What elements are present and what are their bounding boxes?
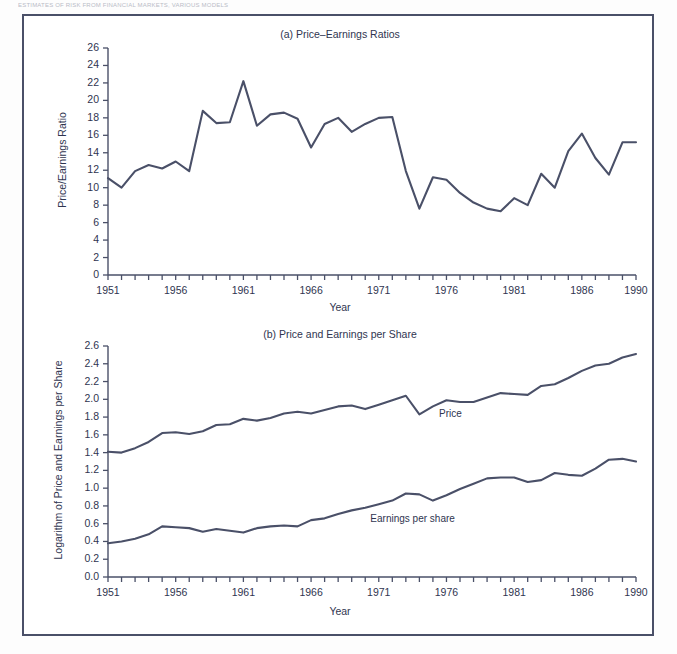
y-tick-label: 12	[63, 163, 99, 175]
x-tick-label: 1986	[552, 586, 612, 598]
y-tick-label: 1.6	[63, 428, 99, 440]
x-tick-label: 1976	[416, 586, 476, 598]
y-tick-label: 2.2	[63, 375, 99, 387]
x-tick-label: 1990	[606, 586, 666, 598]
figure-page: ESTIMATES OF RISK FROM FINANCIAL MARKETS…	[0, 0, 677, 654]
y-tick-label: 1.8	[63, 410, 99, 422]
y-tick-label: 1.4	[63, 446, 99, 458]
x-tick-label: 1971	[349, 586, 409, 598]
y-tick-label: 26	[63, 41, 99, 53]
y-tick-label: 1.0	[63, 481, 99, 493]
y-tick-label: 1.2	[63, 463, 99, 475]
y-tick-label: 2.0	[63, 392, 99, 404]
panel-b-x-axis-label: Year	[24, 605, 656, 617]
y-tick-label: 0.4	[63, 534, 99, 546]
x-tick-label: 1966	[281, 586, 341, 598]
x-tick-label: 1951	[78, 284, 138, 296]
y-tick-label: 0.2	[63, 552, 99, 564]
y-tick-label: 22	[63, 76, 99, 88]
x-tick-label: 1966	[281, 284, 341, 296]
x-tick-label: 1971	[349, 284, 409, 296]
y-tick-label: 0.0	[63, 570, 99, 582]
y-tick-label: 24	[63, 58, 99, 70]
chart-panel-b: (b) Price and Earnings per Share Logarit…	[24, 324, 656, 632]
y-tick-label: 20	[63, 93, 99, 105]
panel-a-plot	[24, 22, 656, 322]
figure-frame: (a) Price–Earnings Ratios Price/Earnings…	[22, 14, 654, 636]
x-tick-label: 1956	[146, 284, 206, 296]
y-tick-label: 6	[63, 216, 99, 228]
y-tick-label: 14	[63, 146, 99, 158]
x-tick-label: 1956	[146, 586, 206, 598]
x-tick-label: 1986	[552, 284, 612, 296]
y-tick-label: 2.6	[63, 339, 99, 351]
x-tick-label: 1961	[213, 284, 273, 296]
x-tick-label: 1990	[606, 284, 666, 296]
y-tick-label: 8	[63, 198, 99, 210]
series-annotation: Price	[439, 408, 462, 419]
running-header: ESTIMATES OF RISK FROM FINANCIAL MARKETS…	[18, 0, 348, 10]
y-tick-label: 18	[63, 111, 99, 123]
y-tick-label: 4	[63, 233, 99, 245]
y-tick-label: 16	[63, 128, 99, 140]
x-tick-label: 1981	[484, 586, 544, 598]
panel-a-x-axis-label: Year	[24, 301, 656, 313]
y-tick-label: 2	[63, 251, 99, 263]
chart-panel-a: (a) Price–Earnings Ratios Price/Earnings…	[24, 22, 656, 322]
x-tick-label: 1976	[416, 284, 476, 296]
series-annotation: Earnings per share	[370, 513, 455, 524]
y-tick-label: 0.8	[63, 499, 99, 511]
y-tick-label: 10	[63, 181, 99, 193]
y-tick-label: 2.4	[63, 357, 99, 369]
y-tick-label: 0.6	[63, 517, 99, 529]
x-tick-label: 1981	[484, 284, 544, 296]
y-tick-label: 0	[63, 268, 99, 280]
x-tick-label: 1951	[78, 586, 138, 598]
x-tick-label: 1961	[213, 586, 273, 598]
